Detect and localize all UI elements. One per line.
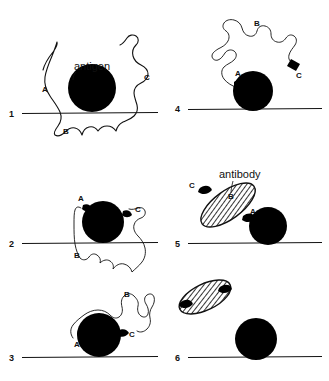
antibody-antigen-figure: 1 antigen A B C 4 A B C 2 A B [0,0,329,381]
panel-3-label-a: A [74,340,80,349]
panel-4-label-c: C [296,71,302,80]
panel-4-label-b: B [254,19,260,28]
panel-1-number: 1 [9,109,14,119]
panel-5-antibody-label: antibody [219,168,261,180]
panel-6-number: 6 [175,353,180,363]
panel-3-number: 3 [9,353,14,363]
panel-1-antigen-label: antigen [74,60,110,72]
panel-3-label-c: C [129,330,135,339]
panel-4-number: 4 [175,104,180,114]
panel-1-label-a: A [42,85,48,94]
panel-2-label-b: B [74,251,80,260]
panel-5-label-b: B [228,192,234,201]
panel-6-antigen [235,318,277,360]
figure-canvas: 1 antigen A B C 4 A B C 2 A B [0,0,329,381]
panel-2-label-a: A [78,194,84,203]
panel-2-label-c: C [135,205,141,214]
panel-2-number: 2 [9,239,14,249]
panel-1-label-b: B [63,127,69,136]
panel-5-number: 5 [175,239,180,249]
panel-1-label-c: C [144,73,150,82]
panel-5-label-a: A [250,207,256,216]
panel-3-label-b: B [124,290,130,299]
panel-4-label-a: A [235,69,241,78]
panel-5-label-c: C [189,181,195,190]
